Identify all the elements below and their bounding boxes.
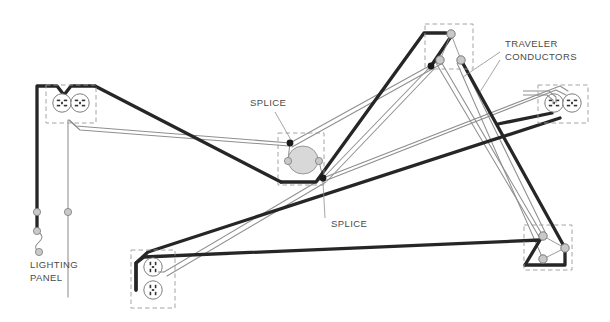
wiring-diagram-canvas: SPLICE SPLICE TRAVELER CONDUCTORS LIGHTI… — [0, 0, 610, 322]
label-splice-lower: SPLICE — [331, 218, 367, 229]
splice-node-switch-common — [428, 63, 435, 70]
leader-line-group — [275, 52, 500, 218]
outlet-face — [563, 94, 581, 112]
fixture-terminal-left — [284, 157, 291, 164]
receptacle-bottom-center[interactable] — [144, 258, 162, 299]
label-traveler-conductors-line2: CONDUCTORS — [505, 51, 577, 62]
leader-splice-upper — [275, 112, 291, 140]
panel-terminal-mid — [33, 227, 40, 234]
switch-terminal-traveler-2 — [457, 56, 465, 64]
conductor-lower-splice-to-right-receptacle-b — [322, 90, 566, 182]
outlet-face — [144, 258, 162, 276]
label-lighting-panel-line1: LIGHTING — [30, 259, 78, 270]
cable-long-bottom-diagonal — [136, 118, 560, 290]
traveler-conductor-1 — [440, 60, 543, 236]
fixture-body — [288, 146, 318, 174]
panel-terminal-bottom — [35, 248, 42, 255]
outlet-face — [53, 94, 71, 112]
splice-node-upper — [287, 140, 294, 147]
conductor-bottomreceptacle-to-lower-splice-b — [167, 182, 326, 276]
panel-terminal-neutral — [64, 208, 71, 215]
receptacle-right[interactable] — [545, 94, 581, 112]
cable-switch-bottomright-to-bottom-receptacle — [136, 240, 540, 290]
switch-terminal-traveler-1 — [436, 56, 444, 64]
outlet-face — [71, 94, 89, 112]
label-splice-upper: SPLICE — [250, 97, 286, 108]
outlet-face — [545, 94, 563, 112]
switch-terminal-common — [561, 244, 569, 252]
leader-traveler-1 — [463, 52, 500, 77]
conductor-lower-splice-to-switch-common-a — [323, 66, 431, 178]
splice-node-lower — [320, 175, 327, 182]
label-traveler-conductors-line1: TRAVELER — [505, 38, 558, 49]
wiring-diagram: SPLICE SPLICE TRAVELER CONDUCTORS LIGHTI… — [0, 0, 610, 322]
leader-traveler-2 — [480, 60, 500, 92]
conductor-splice-to-switch-tr-a — [290, 60, 440, 143]
fixture-terminal-right — [315, 157, 322, 164]
switch-terminal-common — [447, 30, 455, 38]
traveler-conductor-4 — [457, 63, 543, 259]
receptacle-upper-left[interactable] — [53, 94, 89, 112]
outlet-face — [144, 281, 162, 299]
conductor-splice-to-switch-tr-b — [292, 63, 443, 147]
label-lighting-panel-line2: PANEL — [30, 272, 62, 283]
switch-terminal-traveler-2 — [539, 255, 547, 263]
conductor-upperleft-to-splice-b — [69, 120, 289, 146]
lighting-panel-group — [33, 208, 71, 255]
switch-terminal-traveler-1 — [539, 232, 547, 240]
junction-fixture — [284, 146, 322, 174]
conductor-bottomreceptacle-to-lower-splice-a — [164, 178, 323, 272]
leader-splice-lower — [323, 182, 325, 218]
switch-top-right[interactable] — [436, 30, 465, 64]
cable-group-black-overlay — [136, 118, 560, 290]
panel-terminal-top — [33, 208, 40, 215]
